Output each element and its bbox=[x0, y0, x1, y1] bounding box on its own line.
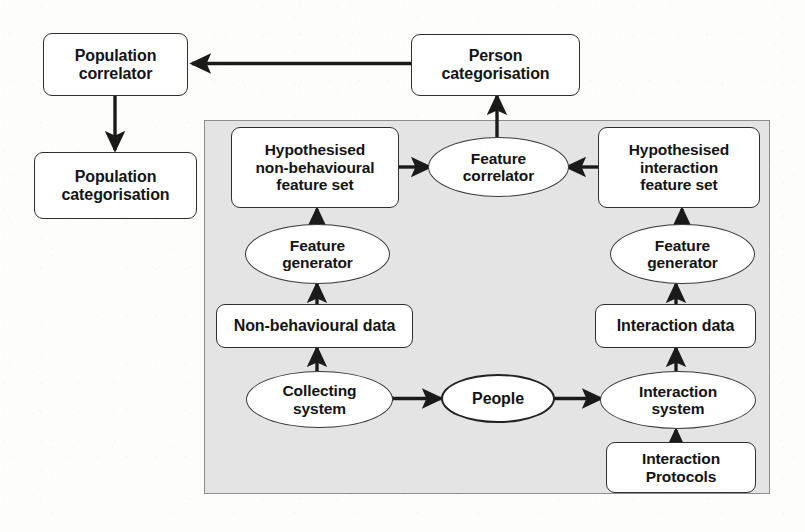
node-non-behavioural-data[interactable]: Non-behavioural data bbox=[216, 304, 413, 348]
node-hypothesised-interaction-feature-set[interactable]: Hypothesisedinteractionfeature set bbox=[598, 127, 760, 208]
node-person-categorisation[interactable]: Personcategorisation bbox=[411, 34, 580, 96]
node-hypothesised-non-behavioural-feature-set-label: Hypothesisednon-behaviouralfeature set bbox=[252, 141, 377, 193]
node-interaction-data[interactable]: Interaction data bbox=[595, 304, 756, 348]
node-hypothesised-interaction-feature-set-label: Hypothesisedinteractionfeature set bbox=[626, 141, 732, 193]
node-people-label: People bbox=[469, 390, 527, 408]
node-people[interactable]: People bbox=[441, 374, 555, 423]
node-feature-generator-right[interactable]: Featuregenerator bbox=[610, 224, 755, 284]
node-population-categorisation[interactable]: Populationcategorisation bbox=[34, 152, 197, 219]
node-interaction-data-label: Interaction data bbox=[614, 317, 738, 335]
node-non-behavioural-data-label: Non-behavioural data bbox=[231, 317, 399, 335]
node-interaction-protocols[interactable]: InteractionProtocols bbox=[606, 442, 756, 493]
node-collecting-system-label: Collectingsystem bbox=[280, 382, 360, 417]
node-feature-correlator-label: Featurecorrelator bbox=[460, 150, 537, 185]
node-hypothesised-non-behavioural-feature-set[interactable]: Hypothesisednon-behaviouralfeature set bbox=[231, 127, 399, 208]
node-population-correlator-label: Populationcorrelator bbox=[72, 47, 160, 83]
node-population-categorisation-label: Populationcategorisation bbox=[59, 168, 173, 204]
node-person-categorisation-label: Personcategorisation bbox=[439, 47, 553, 83]
node-interaction-system[interactable]: Interactionsystem bbox=[600, 371, 756, 429]
node-feature-generator-right-label: Featuregenerator bbox=[644, 237, 721, 272]
node-collecting-system[interactable]: Collectingsystem bbox=[246, 371, 393, 428]
node-feature-generator-left[interactable]: Featuregenerator bbox=[245, 224, 390, 284]
node-interaction-system-label: Interactionsystem bbox=[636, 383, 720, 418]
node-feature-correlator[interactable]: Featurecorrelator bbox=[428, 137, 569, 197]
diagram-canvas: Populationcorrelator Populationcategoris… bbox=[0, 0, 805, 532]
node-feature-generator-left-label: Featuregenerator bbox=[279, 237, 356, 272]
node-interaction-protocols-label: InteractionProtocols bbox=[639, 450, 723, 485]
node-population-correlator[interactable]: Populationcorrelator bbox=[43, 33, 188, 96]
